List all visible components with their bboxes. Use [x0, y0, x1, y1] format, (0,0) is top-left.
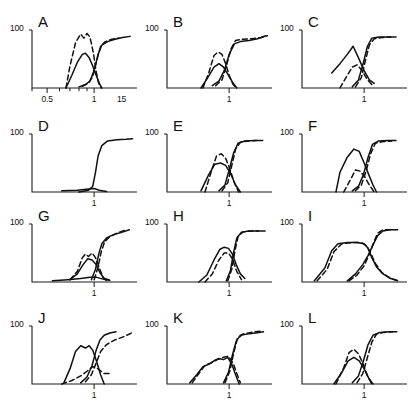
x-tick-label: 1	[219, 390, 239, 400]
y-axis-label-100: 100	[280, 217, 294, 227]
curve-solid-peak	[201, 64, 237, 88]
y-axis-label-100: 100	[145, 217, 159, 227]
x-tick-label: 1	[354, 390, 374, 400]
curve-dashed-peak	[70, 253, 107, 281]
y-axis-label-100: 100	[280, 23, 294, 33]
curve-solid-rise	[352, 140, 396, 190]
curve-solid-peak	[64, 346, 104, 384]
curve-dashed-peak	[344, 170, 374, 192]
panel-a: 100A0.5115	[18, 14, 138, 106]
curve-solid-peak	[334, 357, 373, 384]
panel-l: 100L1	[288, 310, 408, 402]
axis-spines	[302, 30, 407, 88]
panel-letter-l: L	[308, 309, 317, 326]
panel-letter-c: C	[308, 13, 319, 30]
y-axis-label-100: 100	[10, 217, 24, 227]
axis-spines	[302, 134, 407, 192]
panel-letter-b: B	[173, 13, 183, 30]
x-tick-label: 1	[219, 198, 239, 208]
x-tick-label: 1	[84, 390, 104, 400]
curve-solid-rise	[79, 36, 130, 86]
y-axis-label-100: 100	[145, 23, 159, 33]
panel-letter-e: E	[173, 117, 183, 134]
curve-solid-flat-low	[52, 277, 109, 280]
axis-spines	[302, 326, 407, 384]
axis-spines	[302, 224, 407, 282]
y-axis-label-100: 100	[280, 127, 294, 137]
panel-letter-j: J	[38, 309, 46, 326]
x-tick-label: 0.5	[37, 94, 57, 104]
panel-letter-h: H	[173, 207, 184, 224]
curve-dashed-rise	[357, 332, 393, 383]
axis-spines	[32, 134, 137, 192]
x-tick-label: 1	[354, 288, 374, 298]
curve-dashed-rise	[355, 141, 391, 191]
curve-dashed-rise	[222, 140, 257, 190]
curve-dashed-rise	[85, 333, 131, 382]
x-tick-label: 1	[219, 288, 239, 298]
axis-spines	[167, 326, 272, 384]
panel-b: 100B1	[153, 14, 273, 106]
x-tick-label: 15	[112, 94, 132, 104]
y-axis-label-100: 100	[10, 319, 24, 329]
panel-d: 100D1	[18, 118, 138, 210]
x-tick-label: 1	[84, 288, 104, 298]
panel-letter-d: D	[38, 117, 49, 134]
panel-letter-f: F	[308, 117, 317, 134]
y-axis-label-100: 100	[145, 127, 159, 137]
curve-dashed-peak	[336, 349, 372, 384]
curve-solid-rise	[352, 37, 396, 87]
curve-solid-sigmoid	[79, 139, 132, 192]
curve-dashed-rise	[82, 38, 119, 86]
curve-solid-rise	[223, 332, 263, 383]
panel-letter-a: A	[38, 13, 48, 30]
axis-spines	[32, 30, 137, 88]
curve-solid-rise	[347, 230, 397, 281]
panel-k: 100K1	[153, 310, 273, 402]
curve-solid-peak	[199, 247, 245, 282]
axis-spines	[32, 326, 137, 384]
y-axis-label-100: 100	[145, 319, 159, 329]
panel-letter-g: G	[38, 207, 50, 224]
axis-spines	[167, 224, 272, 282]
curve-dashed-rise	[225, 331, 260, 383]
curve-dashed-rise	[216, 36, 268, 86]
x-tick-label: 1	[354, 198, 374, 208]
curve-solid-rise	[352, 332, 397, 383]
x-tick-label: 1	[354, 94, 374, 104]
curve-solid-peak	[70, 259, 109, 280]
panel-h: 100H1	[153, 208, 273, 300]
small-multiples-figure: 100A0.5115100B1100C1100D1100E1100F1100G1…	[0, 0, 415, 420]
curve-solid-rise	[226, 231, 265, 281]
curve-solid-rise	[212, 36, 266, 86]
panel-e: 100E1	[153, 118, 273, 210]
x-tick-label: 1	[84, 94, 104, 104]
panel-letter-k: K	[173, 309, 183, 326]
panel-f: 100F1	[288, 118, 408, 210]
panel-j: 100J1	[18, 310, 138, 402]
x-tick-label: 1	[84, 198, 104, 208]
y-axis-label-100: 100	[10, 23, 24, 33]
panel-c: 100C1	[288, 14, 408, 106]
panel-letter-i: I	[308, 207, 312, 224]
y-axis-label-100: 100	[10, 127, 24, 137]
panel-g: 100G1	[18, 208, 138, 300]
x-tick-label: 1	[219, 94, 239, 104]
panel-i: 100I1	[288, 208, 408, 300]
y-axis-label-100: 100	[280, 319, 294, 329]
